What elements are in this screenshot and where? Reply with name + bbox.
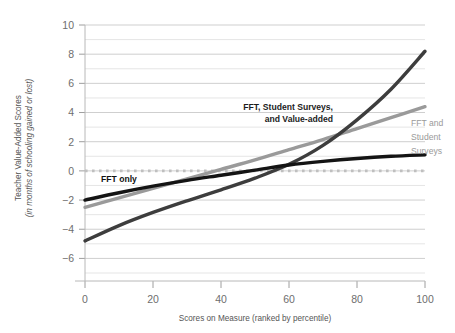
x-tick-label: 100 xyxy=(416,293,434,305)
y-axis-title-line2: (in months of schooling gained or lost) xyxy=(25,79,34,218)
annotation-fft-student-surveys-line3: Surveys xyxy=(411,146,442,156)
x-tick-label: 0 xyxy=(82,293,88,305)
y-tick-label: 0 xyxy=(68,165,74,177)
x-axis-title: Scores on Measure (ranked by percentile) xyxy=(179,314,332,323)
x-tick-label: 40 xyxy=(215,293,227,305)
annotation-fft-surveys-value-added-line2: and Value-added xyxy=(265,114,333,124)
y-tick-label: 8 xyxy=(68,48,74,60)
y-tick-label: 4 xyxy=(68,106,74,118)
value-added-line-chart: 1086420−2−4−6 020406080100 Scores on Mea… xyxy=(0,0,455,333)
annotation-fft-student-surveys-line2: Student xyxy=(411,132,441,142)
y-tick-label: 6 xyxy=(68,77,74,89)
annotation-fft-student-surveys-line1: FFT and xyxy=(411,118,444,128)
chart-container: 1086420−2−4−6 020406080100 Scores on Mea… xyxy=(0,0,455,333)
annotation-fft-only: FFT only xyxy=(101,174,137,184)
x-tick-label: 60 xyxy=(283,293,295,305)
y-tick-label: −6 xyxy=(62,252,74,264)
y-tick-label: 10 xyxy=(62,19,74,31)
y-tick-label: −2 xyxy=(62,194,74,206)
annotation-fft-surveys-value-added-line1: FFT, Student Surveys, xyxy=(243,102,333,112)
y-tick-label: 2 xyxy=(68,136,74,148)
y-tick-label: −4 xyxy=(62,223,74,235)
x-tick-label: 20 xyxy=(147,293,159,305)
y-axis-title-line1: Teacher Value-Added Scores xyxy=(14,95,23,201)
x-tick-label: 80 xyxy=(351,293,363,305)
